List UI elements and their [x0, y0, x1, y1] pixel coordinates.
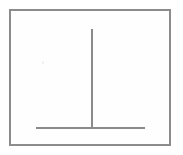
horizontal-stroke	[36, 127, 145, 130]
t-shape-figure	[0, 0, 183, 155]
vertical-stroke	[91, 29, 94, 129]
image-artifact-speck	[42, 61, 44, 64]
diagram-canvas	[0, 0, 183, 155]
